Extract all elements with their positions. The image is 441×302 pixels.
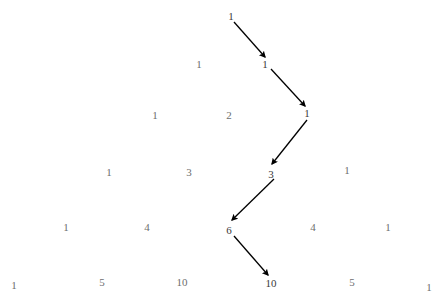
arrow-1-to-3-icon xyxy=(272,120,307,164)
triangle-number: 5 xyxy=(99,277,105,288)
triangle-number: 4 xyxy=(310,222,316,233)
arrow-1-to-1-icon xyxy=(234,22,265,57)
triangle-number: 5 xyxy=(349,277,355,288)
triangle-number: 1 xyxy=(11,280,17,291)
triangle-number: 1 xyxy=(262,59,268,70)
triangle-number: 3 xyxy=(268,169,274,180)
arrow-1-to-1b-icon xyxy=(271,69,305,106)
triangle-number: 1 xyxy=(426,282,432,293)
triangle-number: 1 xyxy=(63,222,69,233)
triangle-number: 4 xyxy=(144,222,150,233)
triangle-number: 1 xyxy=(385,222,391,233)
arrow-3-to-6-icon xyxy=(232,179,274,220)
arrow-layer xyxy=(0,0,441,302)
triangle-number: 1 xyxy=(196,59,202,70)
triangle-number: 1 xyxy=(228,11,234,22)
triangle-number: 2 xyxy=(226,110,232,121)
triangle-number: 10 xyxy=(266,278,277,289)
pascals-triangle-figure: 11112113311464115101051 xyxy=(0,0,441,302)
triangle-number: 6 xyxy=(226,225,232,236)
triangle-number: 1 xyxy=(106,167,112,178)
triangle-number: 1 xyxy=(344,165,350,176)
triangle-number: 1 xyxy=(152,110,158,121)
triangle-number: 3 xyxy=(186,167,192,178)
triangle-number: 1 xyxy=(304,108,310,119)
triangle-number: 10 xyxy=(177,277,188,288)
arrow-6-to-10-icon xyxy=(234,236,268,275)
